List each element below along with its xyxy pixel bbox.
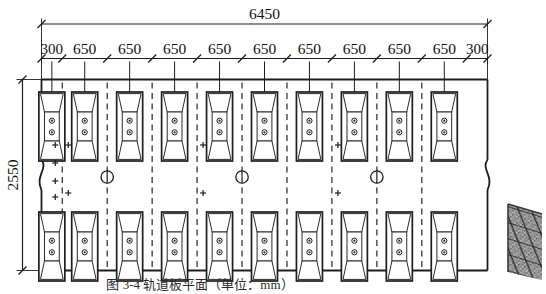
track-unit	[296, 212, 322, 281]
track-unit	[162, 212, 188, 281]
photo-thumbnail	[494, 196, 546, 294]
track-unit	[252, 212, 278, 281]
dimension-segment-label: 300	[466, 41, 489, 57]
track-unit	[431, 92, 457, 161]
unit-group	[39, 92, 457, 281]
detail-marker	[101, 171, 113, 183]
alignment-cross-marker	[335, 142, 341, 148]
track-unit	[296, 92, 322, 161]
track-unit	[39, 92, 65, 161]
track-unit	[162, 92, 188, 161]
alignment-cross-marker	[200, 142, 206, 148]
alignment-cross-marker	[200, 190, 206, 196]
detail-marker	[371, 171, 383, 183]
track-unit	[117, 212, 143, 281]
drawing-canvas: 6450300650650650650650650650650650300255…	[0, 0, 546, 294]
figure-caption: 图 3-4 轨道板平面（单位：mm）	[0, 276, 400, 294]
track-unit	[207, 212, 233, 281]
track-unit	[39, 212, 65, 281]
track-unit	[431, 212, 457, 281]
alignment-cross-marker	[335, 190, 341, 196]
dimension-segment-label: 650	[343, 40, 367, 57]
track-unit	[341, 212, 367, 281]
dimension-segment-label: 650	[433, 40, 457, 57]
track-unit	[72, 92, 98, 161]
detail-marker	[236, 171, 248, 183]
overall-dimension-label: 6450	[249, 5, 280, 22]
dimension-segment-label: 650	[253, 40, 277, 57]
dimension-segment-label: 650	[73, 40, 97, 57]
alignment-cross-marker	[52, 194, 58, 200]
alignment-cross-marker	[65, 190, 71, 196]
dimension-segment-label: 650	[118, 40, 142, 57]
dimension-segment-label: 650	[298, 40, 322, 57]
dimension-segment-label: 650	[208, 40, 232, 57]
dimension-segment-label: 300	[41, 41, 64, 57]
track-unit	[117, 92, 143, 161]
track-unit	[207, 92, 233, 161]
alignment-cross-marker	[52, 178, 58, 184]
track-unit	[386, 92, 412, 161]
engineering-plan-drawing: 6450300650650650650650650650650650300255…	[0, 0, 546, 294]
track-unit	[386, 212, 412, 281]
track-unit	[72, 212, 98, 281]
alignment-cross-marker	[65, 142, 71, 148]
track-unit	[341, 92, 367, 161]
left-dimension-label: 2550	[4, 159, 21, 190]
dimension-segment-label: 650	[388, 40, 412, 57]
dimension-segment-label: 650	[163, 40, 187, 57]
track-unit	[252, 92, 278, 161]
photo-canvas	[494, 196, 546, 294]
